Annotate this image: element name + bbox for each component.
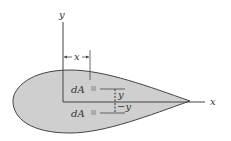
arrow-left-icon xyxy=(64,56,67,59)
dA-lower-square xyxy=(91,110,96,115)
x-dimension-label: x xyxy=(74,51,80,62)
y-lower-label: −y xyxy=(117,101,131,112)
dA-lower-label: dA xyxy=(71,108,85,119)
y-axis-label: y xyxy=(58,9,65,20)
x-axis-label: x xyxy=(210,96,216,107)
arrow-right-icon xyxy=(86,56,89,59)
y-upper-label: y xyxy=(117,89,124,100)
diagram-svg: y x x dA dA y −y xyxy=(0,0,231,141)
dA-upper-label: dA xyxy=(71,84,85,95)
teardrop-area-diagram: y x x dA dA y −y xyxy=(0,0,231,141)
dA-upper-square xyxy=(91,86,96,91)
